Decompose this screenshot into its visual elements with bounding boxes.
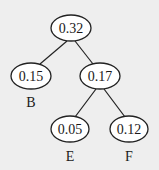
- node-value: 0.15: [19, 69, 44, 84]
- node-value: 0.32: [59, 21, 84, 36]
- node-label: B: [26, 95, 35, 110]
- node-value: 0.12: [117, 122, 142, 137]
- node-internal: 0.17: [80, 63, 120, 89]
- node-label: E: [66, 149, 75, 164]
- node-root: 0.32: [51, 15, 91, 41]
- node-value: 0.17: [88, 69, 113, 84]
- huffman-tree-diagram: 0.32 0.15 B 0.17 0.05 E 0.12 F: [0, 0, 159, 170]
- node-value: 0.05: [58, 122, 83, 137]
- node-label: F: [125, 149, 133, 164]
